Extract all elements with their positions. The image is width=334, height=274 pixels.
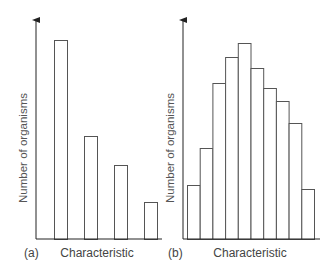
chart-b: Number of organisms (b) Characteristic <box>164 20 320 260</box>
bar <box>302 190 315 240</box>
bars-b <box>188 44 315 240</box>
bar <box>276 102 289 240</box>
bar <box>200 149 213 240</box>
bar <box>251 69 264 240</box>
bar <box>188 186 201 240</box>
bar <box>289 124 302 240</box>
panel-label-b: (b) <box>168 246 183 260</box>
x-axis-label-b: Characteristic <box>213 246 286 260</box>
y-axis-label-b: Number of organisms <box>164 93 176 203</box>
chart-a: Number of organisms (a) Characteristic <box>17 20 162 260</box>
bar <box>264 89 277 240</box>
bar <box>85 137 98 240</box>
bar <box>55 41 68 240</box>
bar <box>115 166 128 240</box>
bar <box>238 44 251 240</box>
panel-label-a: (a) <box>24 246 39 260</box>
bar <box>226 58 239 240</box>
x-axis-label-a: Characteristic <box>60 246 133 260</box>
bar <box>145 203 158 240</box>
bars-a <box>55 41 158 240</box>
figure: Number of organisms (a) Characteristic N… <box>0 0 334 274</box>
y-axis-label-a: Number of organisms <box>17 93 29 203</box>
bar <box>213 84 226 240</box>
